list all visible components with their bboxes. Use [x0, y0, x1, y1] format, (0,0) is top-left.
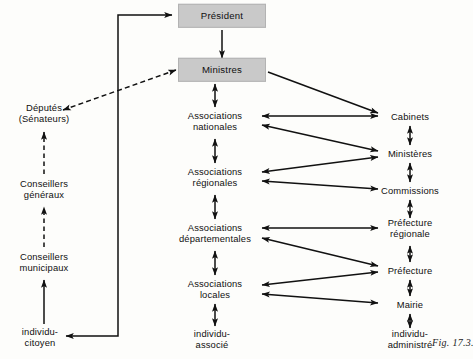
- node-individu-citoyen-sublabel: citoyen: [22, 337, 58, 348]
- node-deputes-label: Députés: [26, 102, 62, 113]
- edge-assoc-nationales-to-ministeres: [262, 125, 378, 151]
- node-president-label: Président: [201, 10, 243, 21]
- node-prefecture[interactable]: Préfecture: [388, 265, 433, 276]
- node-assoc-departementales[interactable]: Associations départementales: [179, 222, 251, 245]
- node-assoc-nationales[interactable]: Associations nationales: [188, 110, 242, 133]
- node-prefecture-regionale-label: Préfecture: [388, 217, 433, 228]
- node-mairie-label: Mairie: [397, 299, 423, 310]
- node-assoc-locales[interactable]: Associations locales: [188, 278, 242, 301]
- node-commissions-label: Commissions: [381, 185, 439, 196]
- edge-assoc-departementales-to-prefecture: [262, 238, 378, 266]
- figure-caption: Fig. 17.3.: [432, 337, 473, 348]
- node-mairie[interactable]: Mairie: [397, 299, 423, 310]
- node-prefecture-regionale[interactable]: Préfecture régionale: [388, 217, 433, 240]
- edge-ministres-to-cabinets: [268, 72, 378, 113]
- edge-assoc-regionales-to-commissions: [262, 181, 378, 189]
- edge-assoc-regionales-to-ministeres: [262, 157, 378, 172]
- node-cabinets[interactable]: Cabinets: [391, 111, 429, 122]
- node-assoc-departementales-label: Associations: [188, 222, 242, 233]
- node-assoc-regionales[interactable]: Associations régionales: [188, 166, 242, 189]
- node-ministeres-label: Ministères: [388, 148, 432, 159]
- edge-individu-citoyen-to-president: [66, 15, 172, 336]
- node-conseillers-generaux-label: Conseillers: [20, 178, 68, 189]
- node-prefecture-label: Préfecture: [388, 265, 433, 276]
- node-commissions[interactable]: Commissions: [381, 185, 439, 196]
- node-conseillers-generaux-sublabel: généraux: [20, 189, 68, 200]
- node-individu-administre-sublabel: administré: [388, 339, 433, 350]
- node-deputes[interactable]: Députés (Sénateurs): [19, 102, 70, 125]
- edge-ministres-to-deputes: [63, 70, 176, 110]
- node-individu-citoyen-label: individu-: [22, 326, 58, 337]
- node-assoc-locales-label: Associations: [188, 278, 242, 289]
- node-prefecture-regionale-sublabel: régionale: [388, 228, 433, 239]
- node-assoc-regionales-label: Associations: [188, 166, 242, 177]
- node-ministres[interactable]: Ministres: [178, 58, 266, 82]
- node-ministres-label: Ministres: [202, 64, 242, 75]
- node-president[interactable]: Président: [178, 4, 266, 28]
- node-ministeres[interactable]: Ministères: [388, 148, 432, 159]
- node-cabinets-label: Cabinets: [391, 111, 429, 122]
- node-individu-associe[interactable]: individu- associé: [194, 328, 230, 351]
- node-individu-administre[interactable]: individu- administré: [388, 328, 433, 351]
- figure-organigramme: Président Ministres Députés (Sénateurs) …: [0, 0, 473, 359]
- node-conseillers-municipaux[interactable]: Conseillers municipaux: [20, 251, 69, 274]
- node-assoc-locales-sublabel: locales: [188, 289, 242, 300]
- node-conseillers-generaux[interactable]: Conseillers généraux: [20, 178, 68, 201]
- node-individu-associe-sublabel: associé: [194, 339, 230, 350]
- node-assoc-nationales-sublabel: nationales: [188, 121, 242, 132]
- node-assoc-nationales-label: Associations: [188, 110, 242, 121]
- edge-assoc-locales-to-mairie: [262, 294, 378, 303]
- edge-assoc-locales-to-prefecture: [262, 272, 378, 285]
- node-individu-administre-label: individu-: [392, 328, 428, 339]
- node-assoc-regionales-sublabel: régionales: [188, 177, 242, 188]
- node-individu-citoyen[interactable]: individu- citoyen: [22, 326, 58, 349]
- node-assoc-departementales-sublabel: départementales: [179, 233, 251, 244]
- node-deputes-sublabel: (Sénateurs): [19, 113, 70, 124]
- node-conseillers-municipaux-sublabel: municipaux: [20, 262, 69, 273]
- node-conseillers-municipaux-label: Conseillers: [20, 251, 68, 262]
- node-individu-associe-label: individu-: [194, 328, 230, 339]
